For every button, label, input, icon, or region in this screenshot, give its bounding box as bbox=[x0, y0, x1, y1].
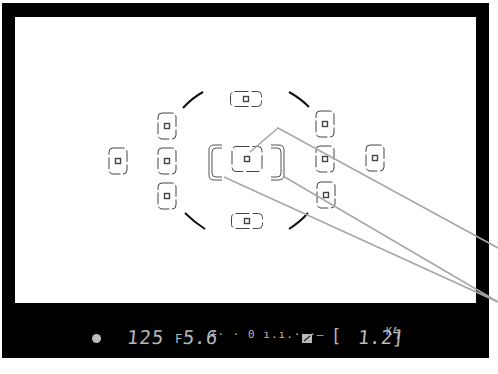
af-point-far-left[interactable] bbox=[109, 148, 127, 174]
af-point-center-square bbox=[323, 122, 328, 127]
arc-bottom-right bbox=[289, 213, 308, 229]
af-point-center-square bbox=[245, 219, 250, 224]
af-point-center-square bbox=[165, 159, 170, 164]
af-point-center-square bbox=[324, 193, 329, 198]
callout-line-right-bracket bbox=[283, 176, 498, 302]
af-point-center-square bbox=[245, 157, 250, 162]
bracket-right-outer bbox=[271, 145, 284, 180]
af-point-center-square bbox=[323, 157, 328, 162]
af-point-upper-left[interactable] bbox=[158, 113, 176, 139]
af-point-center-square bbox=[373, 156, 378, 161]
af-point-lower-left[interactable] bbox=[158, 183, 176, 209]
callout-line-left-bracket bbox=[224, 177, 498, 302]
bracket-left-outer bbox=[209, 145, 222, 180]
arc-top-left bbox=[183, 92, 203, 108]
flash-ready-icon: ϟ bbox=[392, 327, 401, 342]
af-point-top[interactable] bbox=[231, 92, 262, 107]
exposure-compensation-icon bbox=[302, 334, 312, 343]
af-point-bottom[interactable] bbox=[232, 214, 263, 229]
meter-indicator bbox=[92, 334, 101, 343]
frame-count-bracket: [ bbox=[331, 328, 341, 345]
bracket-left-inner bbox=[212, 148, 222, 177]
af-point-upper-right[interactable] bbox=[316, 111, 334, 137]
af-point-center-square bbox=[165, 194, 170, 199]
spot-area-brackets bbox=[209, 145, 284, 180]
shutter-speed: 125 bbox=[126, 328, 165, 347]
af-point-center[interactable] bbox=[232, 147, 262, 172]
bracket-right-inner bbox=[271, 148, 281, 177]
aperture-prefix: F bbox=[175, 333, 182, 345]
af-point-mid-left[interactable] bbox=[158, 148, 176, 174]
af-point-far-right[interactable] bbox=[366, 145, 384, 171]
af-point-center-square bbox=[116, 159, 121, 164]
arc-bottom-left bbox=[185, 213, 205, 229]
arc-top-right bbox=[289, 92, 309, 107]
af-point-center-square bbox=[244, 97, 249, 102]
af-point-center-square bbox=[165, 124, 170, 129]
